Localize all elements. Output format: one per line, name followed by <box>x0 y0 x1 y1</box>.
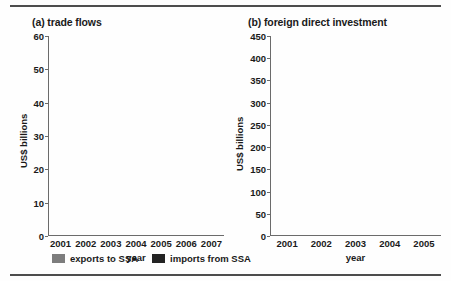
y-tick-label: 450 <box>250 31 266 42</box>
panel-a-bars <box>48 36 224 236</box>
panel-a-axes <box>48 36 224 236</box>
bar-slot <box>73 36 98 236</box>
legend-swatch-exports-icon <box>52 254 65 263</box>
bottom-divider-rule <box>10 274 441 276</box>
bar-slot <box>123 36 148 236</box>
top-divider-rule <box>10 5 441 7</box>
legend: exports to SSA imports from SSA <box>52 253 251 264</box>
y-tick-label: 200 <box>250 142 266 153</box>
bar-slot <box>304 36 338 236</box>
x-tick-label: 2005 <box>407 238 441 249</box>
y-tick-label: 150 <box>250 164 266 175</box>
x-tick-label: 2004 <box>373 238 407 249</box>
panel-a-y-tick-labels: 0102030405060 <box>22 36 44 236</box>
panel-b-title: (b) foreign direct investment <box>248 16 387 28</box>
bar-slot <box>98 36 123 236</box>
panel-b-axes <box>270 36 441 236</box>
legend-item-exports: exports to SSA <box>52 253 138 264</box>
panel-a-x-tick-labels: 2001200220032004200520062007 <box>48 238 224 249</box>
bar-slot <box>48 36 73 236</box>
y-tick-label: 400 <box>250 53 266 64</box>
bar-slot <box>174 36 199 236</box>
y-tick-label: 10 <box>33 197 44 208</box>
panel-b-y-tick-labels: 050100150200250300350400450 <box>238 36 266 236</box>
y-tick-label: 60 <box>33 31 44 42</box>
x-tick-label: 2002 <box>304 238 338 249</box>
x-tick-label: 2003 <box>98 238 123 249</box>
x-tick-label: 2006 <box>174 238 199 249</box>
bar-slot <box>199 36 224 236</box>
y-tick-label: 350 <box>250 75 266 86</box>
y-tick-label: 250 <box>250 119 266 130</box>
panel-a-title: (a) trade flows <box>32 16 102 28</box>
y-tickmark <box>45 236 48 237</box>
y-tick-label: 30 <box>33 131 44 142</box>
bar-slot <box>338 36 372 236</box>
bar-slot <box>373 36 407 236</box>
panel-trade-flows: (a) trade flows US$ billions 01020304050… <box>8 10 230 272</box>
y-tick-label: 0 <box>39 231 44 242</box>
x-tick-label: 2007 <box>199 238 224 249</box>
y-tickmark <box>267 236 270 237</box>
x-tick-label: 2004 <box>123 238 148 249</box>
y-tick-label: 0 <box>261 231 266 242</box>
bar-slot <box>270 36 304 236</box>
legend-swatch-imports-icon <box>152 254 165 263</box>
y-tick-label: 300 <box>250 97 266 108</box>
y-tick-label: 20 <box>33 164 44 175</box>
x-tick-label: 2001 <box>48 238 73 249</box>
panel-foreign-direct-investment: (b) foreign direct investment US$ billio… <box>230 10 445 272</box>
panel-b-x-axis-label: year <box>270 252 441 263</box>
bar-slot <box>407 36 441 236</box>
panel-b-plot: US$ billions 050100150200250300350400450 <box>230 36 445 236</box>
figure-container: (a) trade flows US$ billions 01020304050… <box>0 0 451 281</box>
y-tick-label: 50 <box>255 208 266 219</box>
x-tick-label: 2001 <box>270 238 304 249</box>
y-tick-label: 50 <box>33 64 44 75</box>
panel-a-plot: US$ billions 0102030405060 <box>8 36 230 236</box>
x-tick-label: 2005 <box>149 238 174 249</box>
y-tick-label: 40 <box>33 97 44 108</box>
x-tick-label: 2002 <box>73 238 98 249</box>
bar-slot <box>149 36 174 236</box>
y-tick-label: 100 <box>250 186 266 197</box>
panel-b-x-tick-labels: 20012002200320042005 <box>270 238 441 249</box>
panel-b-bars <box>270 36 441 236</box>
legend-label-exports: exports to SSA <box>70 253 138 264</box>
x-tick-label: 2003 <box>338 238 372 249</box>
